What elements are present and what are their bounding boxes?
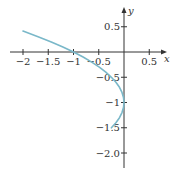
y-tick-label: −1	[105, 97, 120, 108]
plot-area: −2−1.5−1−0.50.50.5−0.5−1−1.5−2.0xy	[0, 0, 172, 173]
y-tick-label: −1.5	[96, 122, 120, 133]
y-tick-label: −2.0	[96, 148, 120, 159]
x-axis-label: x	[164, 53, 170, 64]
chart: −2−1.5−1−0.50.50.5−0.5−1−1.5−2.0xy	[0, 0, 172, 173]
x-tick-label: −2	[16, 56, 31, 67]
y-axis-label: y	[127, 5, 134, 16]
y-tick-label: 0.5	[104, 21, 120, 32]
x-tick-label: 0.5	[141, 56, 157, 67]
x-tick-label: −1	[66, 56, 81, 67]
x-tick-label: −1.5	[36, 56, 60, 67]
y-axis-arrow-icon	[122, 7, 127, 13]
